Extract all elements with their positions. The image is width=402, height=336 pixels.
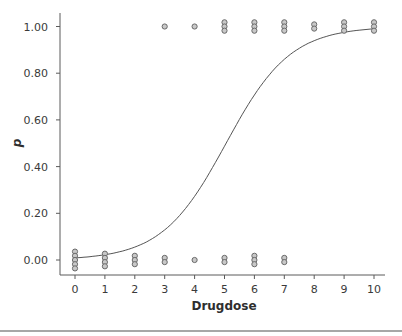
data-point	[222, 28, 227, 33]
y-axis: 0.000.200.400.600.801.00	[24, 13, 61, 275]
x-tick-label: 0	[72, 283, 79, 296]
data-point	[342, 28, 347, 33]
x-ticks: 012345678910	[72, 275, 382, 296]
x-tick-label: 5	[221, 283, 228, 296]
data-point	[371, 28, 376, 33]
x-axis-title: Drugdose	[191, 299, 256, 313]
y-tick-label: 0.80	[24, 67, 49, 80]
data-point	[252, 28, 257, 33]
data-point	[132, 262, 137, 267]
y-tick-label: 0.60	[24, 114, 49, 127]
x-tick-label: 6	[251, 283, 258, 296]
data-point	[72, 266, 77, 271]
logistic-scatter-chart: 0.000.200.400.600.801.00 012345678910 Dr…	[0, 0, 402, 336]
x-tick-label: 1	[101, 283, 108, 296]
data-point	[162, 24, 167, 29]
y-tick-label: 1.00	[24, 21, 49, 34]
data-point	[162, 260, 167, 265]
data-point	[222, 260, 227, 265]
x-tick-label: 8	[311, 283, 318, 296]
y-axis-title: p	[10, 138, 24, 148]
x-tick-label: 4	[191, 283, 198, 296]
x-tick-label: 2	[131, 283, 138, 296]
y-tick-label: 0.00	[24, 254, 49, 267]
x-tick-label: 3	[161, 283, 168, 296]
data-point	[282, 260, 287, 265]
x-tick-label: 7	[281, 283, 288, 296]
data-point	[252, 262, 257, 267]
data-point	[312, 26, 317, 31]
y-tick-label: 0.40	[24, 161, 49, 174]
data-point	[192, 257, 197, 262]
x-tick-label: 10	[367, 283, 381, 296]
fitted-curve-line	[75, 29, 374, 258]
x-tick-label: 9	[341, 283, 348, 296]
data-point	[282, 28, 287, 33]
data-point	[192, 24, 197, 29]
y-tick-label: 0.20	[24, 207, 49, 220]
y-ticks: 0.000.200.400.600.801.00	[24, 21, 61, 268]
x-axis: 012345678910	[60, 275, 385, 296]
data-point	[102, 264, 107, 269]
